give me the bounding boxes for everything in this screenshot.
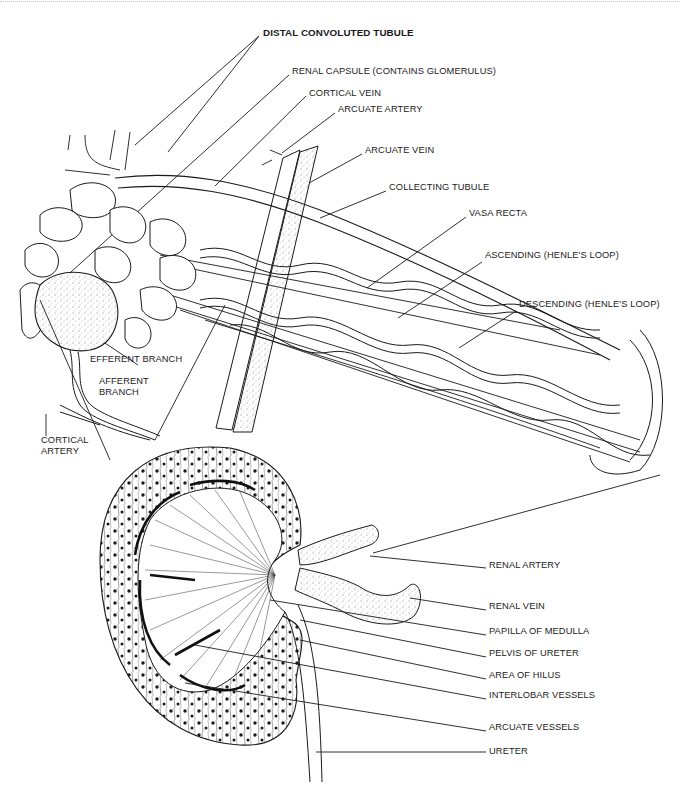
label-collecting-tubule: COLLECTING TUBULE [389,182,489,193]
label-arcuate-vessels: ARCUATE VESSELS [489,722,579,733]
henle-loop-bundle [160,255,640,462]
label-descending-henle: DESCENDING (HENLE'S LOOP) [519,299,660,310]
label-cortical-artery: CORTICAL ARTERY [41,435,89,457]
label-renal-artery: RENAL ARTERY [489,560,560,571]
label-pelvis-of-ureter: PELVIS OF URETER [489,648,579,659]
label-efferent-branch: EFFERENT BRANCH [90,354,182,365]
label-afferent-branch: AFFERENT BRANCH [99,376,149,398]
label-ureter: URETER [489,746,528,757]
label-papilla-of-medulla: PAPILLA OF MEDULLA [489,626,589,637]
renal-capsule-glomerulus [35,272,118,351]
label-cortical-vein: CORTICAL VEIN [309,88,381,99]
label-arcuate-vein: ARCUATE VEIN [365,145,434,156]
label-renal-capsule: RENAL CAPSULE (CONTAINS GLOMERULUS) [292,66,496,77]
label-vasa-recta: VASA RECTA [469,208,527,219]
label-distal-convoluted-tubule: DISTAL CONVOLUTED TUBULE [263,27,414,38]
renal-vein-vessel [295,568,420,624]
label-ascending-henle: ASCENDING (HENLE'S LOOP) [485,250,619,261]
renal-artery-vessel [298,525,379,565]
label-arcuate-artery: ARCUATE ARTERY [338,104,423,115]
label-renal-vein: RENAL VEIN [489,601,545,612]
label-area-of-hilus: AREA OF HILUS [489,670,561,681]
label-interlobar-vessels: INTERLOBAR VESSELS [489,690,595,701]
